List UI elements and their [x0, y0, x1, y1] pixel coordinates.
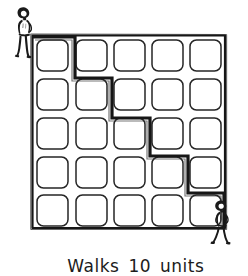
grid-cell: [114, 195, 145, 226]
grid-cell: [114, 79, 145, 110]
walking-path: [34, 37, 224, 227]
grid-cell: [76, 157, 107, 188]
grid-cells: [37, 40, 221, 226]
grid-cell: [190, 118, 221, 149]
grid-cell: [152, 118, 183, 149]
caption-verb: Walks: [67, 256, 119, 276]
caption-unit: units: [160, 256, 204, 276]
grid-cell: [152, 40, 183, 71]
grid-cell: [190, 157, 221, 188]
grid-cell: [152, 157, 183, 188]
walker-start-figure: [15, 7, 32, 58]
grid-cell: [76, 40, 107, 71]
grid-cell: [76, 79, 107, 110]
grid-cell: [37, 79, 68, 110]
grid-cell: [76, 195, 107, 226]
grid-cell: [76, 118, 107, 149]
grid-cell: [37, 195, 68, 226]
grid-cell: [152, 79, 183, 110]
figure-caption: Walks10units: [0, 236, 248, 276]
caption-number: 10: [128, 256, 151, 276]
grid-cell: [114, 118, 145, 149]
grid-outer-frame: [31, 34, 227, 230]
grid-cell: [114, 157, 145, 188]
grid-cell: [37, 118, 68, 149]
grid-cell: [37, 40, 68, 71]
grid-cell: [114, 40, 145, 71]
grid-cell: [190, 79, 221, 110]
grid-cell: [190, 40, 221, 71]
grid-cell: [152, 195, 183, 226]
grid-cell: [37, 157, 68, 188]
